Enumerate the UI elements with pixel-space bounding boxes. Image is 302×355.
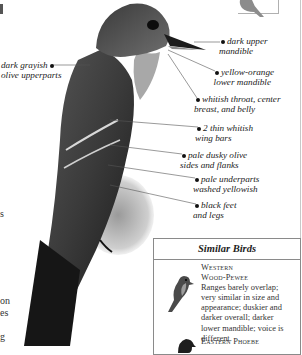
callout-feet-legs: black feet and legs <box>193 200 236 220</box>
callout-underparts: pale underparts washed yellowish <box>193 174 259 194</box>
callout-yellow-orange-lower-mandible: yellow-orange lower mandible <box>213 67 271 87</box>
similar-bird-name: Eastern Phoebe <box>201 337 297 347</box>
similar-bird-western-wood-pewee: Western Wood-Pewee Ranges barely overlap… <box>201 263 297 344</box>
similar-bird-name: Western <box>201 263 297 273</box>
similar-birds-title: Similar Birds <box>154 239 300 260</box>
similar-bird-description: Ranges barely overlap; very similar in s… <box>201 283 297 344</box>
leader-dot <box>50 64 54 68</box>
leader-dot <box>195 178 199 182</box>
callout-dark-grayish-olive-upperparts: dark grayish olive upperparts <box>1 60 53 80</box>
similar-bird-eastern-phoebe: Eastern Phoebe <box>201 337 297 347</box>
leader-dot <box>215 71 219 75</box>
leader-dot <box>195 204 199 208</box>
similar-birds-box: Similar Birds Western Wood-Pewee Ranges … <box>153 238 301 355</box>
callout-dark-upper-mandible: dark upper mandible <box>219 36 268 56</box>
eastern-phoebe-thumbnail <box>174 337 196 353</box>
leader-dot <box>196 98 200 102</box>
callout-sides-flanks: pale dusky olive sides and flanks <box>180 150 247 170</box>
callout-wing-bars: 2 thin whitish wing bars <box>195 123 253 143</box>
western-wood-pewee-thumbnail <box>166 274 194 314</box>
leader-dot <box>182 154 186 158</box>
leader-dot <box>221 40 225 44</box>
similar-bird-name: Wood-Pewee <box>201 273 297 283</box>
callout-whitish-throat: whitish throat, center breast, and belly <box>194 94 281 114</box>
leader-dot <box>197 127 201 131</box>
